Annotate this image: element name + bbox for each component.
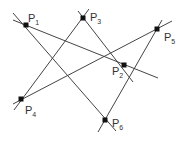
label-p6: P6 <box>112 118 123 131</box>
label-p4: P4 <box>25 105 36 118</box>
point-p4 <box>19 97 24 102</box>
line-p4-p5 <box>13 21 172 104</box>
label-subscript: 4 <box>32 111 36 118</box>
line-p3-p2 <box>78 11 133 82</box>
line-p1-p2 <box>13 20 158 78</box>
label-p3: P3 <box>90 12 101 25</box>
label-subscript: 6 <box>119 124 123 131</box>
label-p2: P2 <box>112 66 123 79</box>
point-p6 <box>103 118 108 123</box>
label-subscript: 3 <box>97 18 101 25</box>
label-p1: P1 <box>28 13 39 26</box>
label-p5: P5 <box>164 32 175 45</box>
label-subscript: 5 <box>171 38 175 45</box>
label-subscript: 1 <box>35 19 39 26</box>
point-p3 <box>81 16 86 21</box>
point-p5 <box>155 27 160 32</box>
label-subscript: 2 <box>119 72 123 79</box>
